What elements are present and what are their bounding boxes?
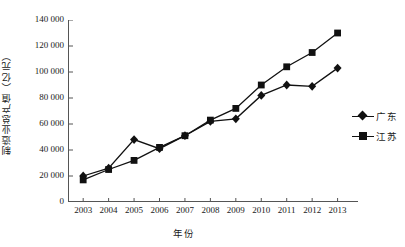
data-point-square [105,166,112,173]
x-axis-title-text: 年份 [173,229,194,239]
y-tick-label: 100 000 [35,67,64,76]
y-tick-label: 60 000 [39,119,64,128]
plot-area [68,20,358,202]
legend-item-jiangsu: 江苏 [352,126,405,146]
x-axis-title: 年份 [0,226,405,240]
data-point-square [156,144,163,151]
manufacturing-output-line-chart: 制造业总产值（亿元） 020 00040 00060 00080 000100 … [0,0,405,247]
y-tick-label: 140 000 [35,15,64,24]
legend-label-jiangsu: 江苏 [376,129,397,143]
legend-label-guangdong: 广东 [376,109,397,123]
data-point-diamond [283,81,291,90]
y-tick-label: 40 000 [39,145,64,154]
data-point-square [182,132,189,139]
y-tick-label: 120 000 [35,41,64,50]
x-axis-tick-labels: 2003200420052006200720082009201020112012… [0,206,405,222]
data-point-square [80,177,87,184]
data-point-square [309,49,316,56]
data-point-square [131,157,138,164]
data-point-square [207,117,214,124]
y-tick-label: 0 [60,197,65,206]
data-point-square [283,63,290,70]
square-marker-icon [352,130,374,142]
chart-legend: 广东 江苏 [352,106,405,146]
data-point-square [334,30,341,37]
data-point-square [232,105,239,112]
series-line-江苏 [83,33,337,180]
legend-item-guangdong: 广东 [352,106,405,126]
data-point-square [258,82,265,89]
y-axis-title-text: 制造业总产值（亿元） [3,50,13,155]
data-point-diamond [308,82,316,91]
plot-svg [68,20,358,202]
y-tick-label: 80 000 [39,93,64,102]
diamond-marker-icon [352,110,374,122]
y-tick-label: 20 000 [39,171,64,180]
data-point-diamond [334,64,342,73]
x-tick-label: 2013 [321,206,355,215]
